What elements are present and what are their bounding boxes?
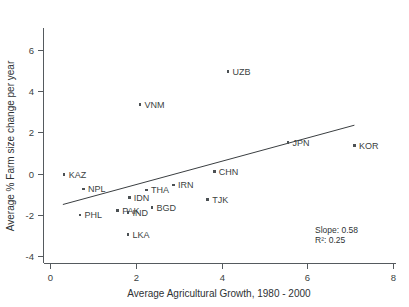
- point-marker: [127, 233, 130, 236]
- x-tick-label: 8: [391, 272, 396, 283]
- x-axis-title: Average Agricultural Growth, 1980 - 2000: [127, 288, 311, 299]
- y-tick-label: 4: [29, 86, 34, 97]
- y-tick-label: 2: [29, 127, 34, 138]
- point-label: IDN: [134, 193, 150, 203]
- data-point: IRN: [172, 180, 193, 190]
- point-label: UZB: [232, 67, 250, 77]
- point-marker: [172, 184, 175, 187]
- y-axis-ticks: -4-20246: [26, 45, 44, 262]
- regression-line: [63, 125, 355, 204]
- point-marker: [139, 103, 142, 106]
- data-point: CHN: [213, 167, 238, 177]
- x-tick-label: 6: [305, 272, 310, 283]
- x-tick-label: 0: [48, 272, 53, 283]
- y-axis-title: Average % Farm size change per year: [5, 60, 16, 231]
- point-marker: [128, 196, 131, 199]
- point-marker: [206, 198, 209, 201]
- point-marker: [63, 173, 66, 176]
- point-label: BGD: [157, 203, 177, 213]
- x-tick-label: 2: [134, 272, 139, 283]
- point-label: KOR: [359, 141, 379, 151]
- y-tick-label: 6: [29, 45, 34, 56]
- slope-annotation: Slope: 0.58: [315, 225, 358, 235]
- point-label: THA: [151, 185, 169, 195]
- point-label: KAZ: [69, 170, 87, 180]
- data-point: IDN: [128, 193, 149, 203]
- data-point: NPL: [82, 184, 105, 194]
- data-point: VNM: [139, 100, 165, 110]
- point-marker: [82, 188, 85, 191]
- regression-line-path: [63, 125, 355, 204]
- point-marker: [287, 141, 290, 144]
- y-tick-label: 0: [29, 169, 34, 180]
- y-tick-label: -2: [26, 210, 34, 221]
- data-point: KOR: [353, 141, 379, 151]
- point-marker: [213, 170, 216, 173]
- data-points: UZBVNMJPNKORCHNKAZIRNNPLTHAIDNTJKBGDPAKI…: [63, 67, 379, 240]
- x-tick-label: 4: [220, 272, 225, 283]
- plot-canvas: -4-20246 02468 UZBVNMJPNKORCHNKAZIRNNPLT…: [0, 0, 409, 307]
- point-label: IRN: [178, 180, 194, 190]
- y-tick-label: -4: [26, 251, 34, 262]
- point-label: VNM: [145, 100, 165, 110]
- point-label: NPL: [88, 184, 106, 194]
- point-marker: [227, 70, 230, 73]
- r-squared-annotation: R²: 0.25: [315, 235, 346, 245]
- x-axis-ticks: 02468: [48, 264, 396, 284]
- point-label: JPN: [292, 138, 309, 148]
- point-label: IND: [133, 208, 149, 218]
- point-label: TJK: [212, 195, 228, 205]
- point-marker: [127, 211, 130, 214]
- data-point: UZB: [227, 67, 251, 77]
- point-marker: [116, 209, 119, 212]
- point-marker: [151, 206, 154, 209]
- data-point: LKA: [127, 230, 150, 240]
- point-marker: [145, 189, 148, 192]
- point-marker: [353, 144, 356, 147]
- data-point: BGD: [151, 203, 177, 213]
- data-point: KAZ: [63, 170, 87, 180]
- point-marker: [79, 214, 82, 217]
- point-label: CHN: [219, 167, 239, 177]
- scatter-plot-figure: -4-20246 02468 UZBVNMJPNKORCHNKAZIRNNPLT…: [0, 0, 409, 307]
- point-label: PHL: [85, 210, 103, 220]
- data-point: PHL: [79, 210, 102, 220]
- data-point: TJK: [206, 195, 228, 205]
- point-label: LKA: [133, 230, 150, 240]
